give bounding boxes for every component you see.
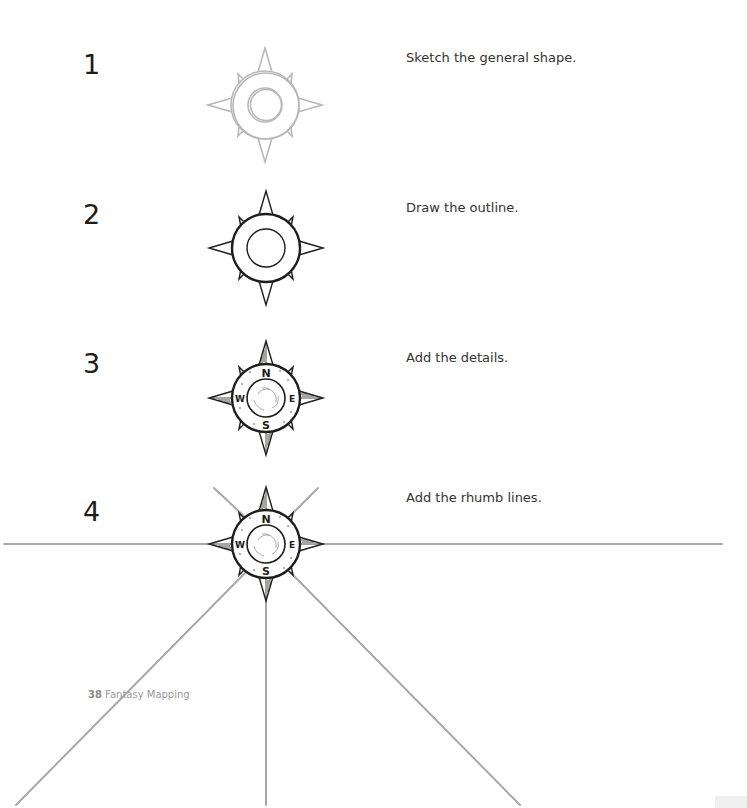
compass-rhumb-icon: N S W E (209, 487, 323, 601)
step-number-3: 3 (83, 350, 100, 377)
step-instruction-4: Add the rhumb lines. (406, 491, 542, 504)
illustration-canvas: N S W E (0, 0, 747, 808)
compass-north-label: N (261, 367, 270, 380)
compass-sketch-icon (208, 48, 322, 162)
book-title: Fantasy Mapping (105, 689, 190, 700)
compass-west-label: W (235, 540, 245, 550)
step-instruction-2: Draw the outline. (406, 201, 518, 214)
compass-outline-icon (209, 191, 323, 305)
step-instruction-3: Add the details. (406, 351, 508, 364)
compass-north-label: N (261, 513, 270, 526)
compass-detailed-icon: N S W E (209, 341, 323, 455)
step-instruction-1: Sketch the general shape. (406, 51, 576, 64)
page-number: 38 (88, 689, 102, 700)
compass-west-label: W (235, 394, 245, 404)
compass-east-label: E (289, 394, 295, 404)
compass-south-label: S (262, 419, 270, 432)
step-number-4: 4 (83, 498, 100, 525)
step-number-1: 1 (83, 51, 100, 78)
page-folio: 38 Fantasy Mapping (88, 689, 190, 700)
compass-south-label: S (262, 565, 270, 578)
page-edge-shadow (715, 796, 747, 808)
rhumb-lines (4, 488, 722, 805)
step-number-2: 2 (83, 201, 100, 228)
compass-east-label: E (289, 540, 295, 550)
